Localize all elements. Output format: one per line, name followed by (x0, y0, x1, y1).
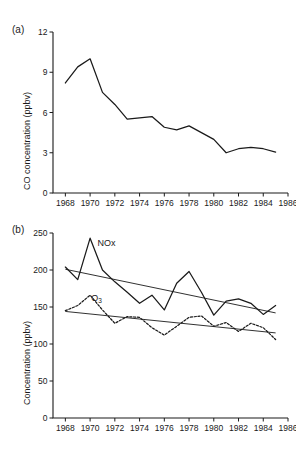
series-o3-trend (65, 311, 275, 332)
y-tick-label: 9 (43, 67, 48, 77)
panel-b-plot: 0501001502002501968197019721974197619781… (0, 220, 296, 451)
x-tick-label: 1980 (204, 198, 223, 208)
y-tick-label: 150 (33, 302, 47, 312)
x-tick-label: 1974 (130, 198, 149, 208)
x-tick-label: 1976 (155, 423, 174, 433)
y-tick-label: 6 (43, 108, 48, 118)
x-tick-label: 1984 (254, 423, 273, 433)
figure-container: (a) CO concentration (ppbv) 036912196819… (0, 0, 296, 451)
x-tick-label: 1972 (105, 423, 124, 433)
panel-b-nox-o3-chart: (b) Concentration (ppbv) 050100150200250… (0, 220, 296, 451)
x-tick-label: 1986 (279, 423, 296, 433)
series-annotation-nox: NOx (98, 238, 117, 248)
x-tick-label: 1968 (56, 198, 75, 208)
x-tick-label: 1972 (105, 198, 124, 208)
y-tick-label: 3 (43, 148, 48, 158)
y-tick-label: 50 (38, 376, 48, 386)
y-tick-label: 12 (38, 27, 48, 37)
x-tick-label: 1974 (130, 423, 149, 433)
series-nox-trend (65, 269, 275, 313)
y-tick-label: 0 (43, 413, 48, 423)
x-tick-label: 1968 (56, 423, 75, 433)
x-tick-label: 1976 (155, 198, 174, 208)
x-tick-label: 1982 (229, 423, 248, 433)
x-tick-label: 1982 (229, 198, 248, 208)
x-tick-label: 1978 (180, 198, 199, 208)
y-tick-label: 0 (43, 188, 48, 198)
x-tick-label: 1970 (81, 198, 100, 208)
panel-a-co-chart: (a) CO concentration (ppbv) 036912196819… (0, 0, 296, 225)
x-tick-label: 1984 (254, 198, 273, 208)
x-tick-label: 1978 (180, 423, 199, 433)
panel-a-plot: 0369121968197019721974197619781980198219… (0, 0, 296, 225)
y-tick-label: 100 (33, 339, 47, 349)
series-co (65, 59, 275, 153)
x-tick-label: 1980 (204, 423, 223, 433)
y-tick-label: 250 (33, 228, 47, 238)
series-annotation-o3: O3 (91, 293, 102, 304)
x-tick-label: 1970 (81, 423, 100, 433)
x-tick-label: 1986 (279, 198, 296, 208)
y-tick-label: 200 (33, 265, 47, 275)
